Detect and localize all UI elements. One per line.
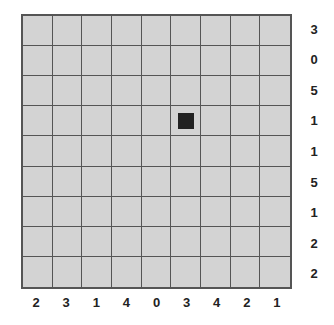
grid-cell[interactable] [53,136,83,166]
column-clue: 1 [262,289,292,315]
grid-cell[interactable] [82,257,112,287]
grid-cell[interactable] [201,16,231,46]
grid-cell[interactable] [53,197,83,227]
grid-cell[interactable] [82,227,112,257]
grid-cell[interactable] [142,106,172,136]
row-clue: 2 [292,258,334,289]
grid-cell[interactable] [112,16,142,46]
grid-cell[interactable] [23,76,53,106]
grid-cell[interactable] [23,227,53,257]
grid-cell[interactable] [171,16,201,46]
grid-cell[interactable] [201,46,231,76]
grid-cell[interactable] [82,46,112,76]
row-clue: 2 [292,228,334,259]
grid-cell[interactable] [112,76,142,106]
grid-cell[interactable] [23,197,53,227]
grid-cell-filled[interactable] [171,106,201,136]
grid-cell[interactable] [231,106,261,136]
grid-cell[interactable] [171,46,201,76]
grid-cell[interactable] [112,167,142,197]
grid-cell[interactable] [171,167,201,197]
grid-cell[interactable] [171,76,201,106]
column-clue: 4 [111,289,141,315]
grid-cell[interactable] [201,106,231,136]
grid-cell[interactable] [82,106,112,136]
row-clue: 5 [292,167,334,198]
column-clue: 3 [51,289,81,315]
grid-cell[interactable] [142,136,172,166]
grid-cell[interactable] [260,106,290,136]
grid-cell[interactable] [53,167,83,197]
grid-cell[interactable] [231,227,261,257]
grid-cell[interactable] [231,167,261,197]
row-clue: 0 [292,45,334,76]
grid-cell[interactable] [53,46,83,76]
grid-cell[interactable] [171,257,201,287]
grid-cell[interactable] [23,136,53,166]
grid-cell[interactable] [112,197,142,227]
grid-cell[interactable] [260,257,290,287]
grid-cell[interactable] [231,136,261,166]
row-clue: 5 [292,75,334,106]
column-clues: 231403421 [21,289,292,315]
grid-cell[interactable] [260,197,290,227]
grid-cell[interactable] [23,167,53,197]
grid-cell[interactable] [142,167,172,197]
grid-cell[interactable] [260,167,290,197]
grid-cell[interactable] [201,76,231,106]
grid-cell[interactable] [142,76,172,106]
grid-cell[interactable] [53,257,83,287]
grid-cell[interactable] [112,257,142,287]
grid-cell[interactable] [82,136,112,166]
grid-cell[interactable] [23,257,53,287]
grid-cell[interactable] [82,167,112,197]
grid-cell[interactable] [231,197,261,227]
grid-cell[interactable] [82,16,112,46]
row-clue: 1 [292,136,334,167]
row-clue: 3 [292,14,334,45]
grid-cell[interactable] [231,257,261,287]
row-clues: 305115122 [292,14,334,289]
grid-cell[interactable] [260,136,290,166]
grid-cell[interactable] [82,197,112,227]
column-clue: 3 [172,289,202,315]
grid-cell[interactable] [112,136,142,166]
grid-cell[interactable] [201,227,231,257]
grid-cell[interactable] [53,106,83,136]
grid-cell[interactable] [260,227,290,257]
grid-cell[interactable] [201,167,231,197]
column-clue: 4 [202,289,232,315]
grid-cell[interactable] [231,46,261,76]
grid-cell[interactable] [53,16,83,46]
grid-cell[interactable] [201,197,231,227]
grid-cell[interactable] [142,46,172,76]
grid-cell[interactable] [171,227,201,257]
grid-cell[interactable] [260,76,290,106]
grid-cell[interactable] [231,76,261,106]
grid-cell[interactable] [142,16,172,46]
grid-cell[interactable] [260,16,290,46]
grid-cell[interactable] [23,46,53,76]
grid-cell[interactable] [23,106,53,136]
grid-cell[interactable] [142,257,172,287]
grid-cell[interactable] [171,136,201,166]
grid-cell[interactable] [112,46,142,76]
grid-cell[interactable] [171,197,201,227]
grid-cell[interactable] [23,16,53,46]
grid-cell[interactable] [53,76,83,106]
grid-cell[interactable] [53,227,83,257]
grid-cell[interactable] [231,16,261,46]
column-clue: 1 [81,289,111,315]
column-clue: 2 [21,289,51,315]
grid-cell[interactable] [82,76,112,106]
row-clue: 1 [292,106,334,137]
grid-cell[interactable] [112,227,142,257]
grid-cell[interactable] [142,227,172,257]
grid-cell[interactable] [201,136,231,166]
grid-cell[interactable] [142,197,172,227]
grid-cell[interactable] [201,257,231,287]
puzzle-grid [21,14,292,289]
row-clue: 1 [292,197,334,228]
grid-cell[interactable] [260,46,290,76]
grid-cell[interactable] [112,106,142,136]
